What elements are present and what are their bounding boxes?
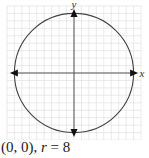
coordinate-plane: x y: [0, 0, 149, 140]
x-axis-label: x: [139, 67, 145, 79]
caption-radius-value: = 8: [47, 139, 70, 155]
y-axis-label: y: [71, 0, 77, 10]
graph-caption: (0, 0), r = 8: [1, 138, 70, 156]
caption-center: (0, 0),: [1, 139, 37, 155]
